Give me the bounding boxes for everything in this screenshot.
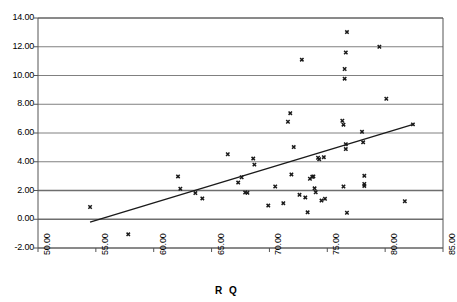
x-tick-label: 60.00 [158,233,168,255]
y-tick-label: 4.00 [0,156,34,166]
y-tick-label: 14.00 [0,12,34,22]
x-tick-label: 50.00 [42,233,52,255]
x-tick-label: 75.00 [331,233,341,255]
x-tick-label: 80.00 [389,233,399,255]
y-tick-label: 2.00 [0,185,34,195]
y-tick-label: 12.00 [0,41,34,51]
y-tick-label: 10.00 [0,70,34,80]
x-tick-label: 55.00 [100,233,110,255]
x-tick-label: 85.00 [447,233,457,255]
y-tick-label: -2.00 [0,242,34,252]
y-tick-label: 6.00 [0,127,34,137]
x-tick-label: 65.00 [216,233,226,255]
y-tick-label: 8.00 [0,98,34,108]
x-tick-label: 70.00 [273,233,283,255]
x-axis-title: R Q [0,285,454,296]
y-tick-label: 0.00 [0,213,34,223]
